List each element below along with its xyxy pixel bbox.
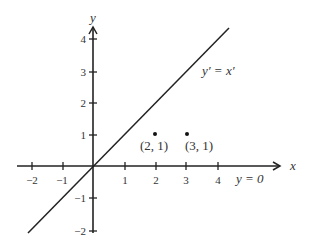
line-label: y′ = x′ [200,63,235,78]
x-axis-label: x [289,158,296,173]
y-axis-label: y [88,10,96,25]
coordinate-diagram: −2 −1 1 2 3 4 4 3 2 1 −1 −2 x y y′ = x′ … [0,0,309,250]
y-tick-label: 4 [81,33,87,45]
x-tick-label: 4 [215,174,221,186]
x-tick-label: −2 [26,174,38,186]
x-axis-annotation: y = 0 [234,171,264,186]
y-tick-label: −2 [74,225,86,237]
y-tick-label: 3 [81,66,87,78]
x-tick-label: 2 [153,174,159,186]
point-label-3-1: (3, 1) [185,138,213,153]
x-tick-label: −1 [56,174,68,186]
line-y-equals-x [28,28,229,233]
x-tick-label: 1 [122,174,128,186]
point-2-1 [153,132,157,136]
point-3-1 [185,132,189,136]
y-tick-label: 2 [81,97,87,109]
x-tick-label: 3 [183,174,189,186]
y-tick-label: −1 [74,192,86,204]
point-label-2-1: (2, 1) [140,138,168,153]
y-tick-label: 1 [81,129,87,141]
